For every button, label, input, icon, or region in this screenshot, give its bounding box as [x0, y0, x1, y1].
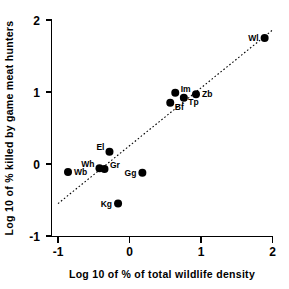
- point-label-gg: Gg: [125, 168, 137, 178]
- x-axis-ticks: -1012: [53, 237, 276, 260]
- point-label-tp: Tp: [188, 97, 198, 107]
- point-label-gr: Gr: [110, 160, 121, 170]
- x-tick-label: 2: [269, 245, 276, 259]
- data-point-gr: [100, 165, 108, 173]
- data-point-wl: [261, 34, 269, 42]
- point-label-wl: Wl: [248, 33, 258, 43]
- point-label-im: Im: [181, 84, 191, 94]
- data-point-kg: [114, 200, 122, 208]
- y-tick-label: 2: [33, 14, 40, 28]
- x-tick-label: 0: [126, 245, 133, 259]
- scatter-plot-figure: -1012 -1012 WbWhGrElGgKgBfTpImZbWl Log 1…: [0, 0, 289, 289]
- x-axis-title: Log 10 of % of total wildlife density: [69, 268, 255, 280]
- point-label-bf: Bf: [175, 102, 184, 112]
- data-point-im: [171, 89, 179, 97]
- data-point-el: [105, 148, 113, 156]
- y-tick-label: 1: [33, 86, 40, 100]
- data-point-bf: [166, 99, 174, 107]
- y-axis-title: Log 10 of % killed by game meat hunters: [3, 21, 15, 236]
- data-point-wb: [64, 168, 72, 176]
- trend-line-group: [58, 30, 273, 204]
- point-label-el: El: [96, 142, 104, 152]
- x-tick-label: 1: [198, 245, 205, 259]
- y-tick-label: -1: [29, 230, 40, 244]
- data-points-group: WbWhGrElGgKgBfTpImZbWl: [64, 33, 269, 209]
- y-axis-ticks: -1012: [29, 14, 51, 244]
- point-label-zb: Zb: [202, 89, 212, 99]
- plot-canvas: -1012 -1012 WbWhGrElGgKgBfTpImZbWl Log 1…: [0, 0, 289, 289]
- data-point-zb: [192, 90, 200, 98]
- data-point-gg: [138, 169, 146, 177]
- regression-trend-line: [58, 30, 273, 204]
- point-label-wh: Wh: [81, 159, 94, 169]
- data-point-tp: [180, 94, 188, 102]
- x-tick-label: -1: [53, 245, 64, 259]
- y-tick-label: 0: [33, 158, 40, 172]
- axes-group: [52, 20, 274, 237]
- point-label-kg: Kg: [101, 199, 112, 209]
